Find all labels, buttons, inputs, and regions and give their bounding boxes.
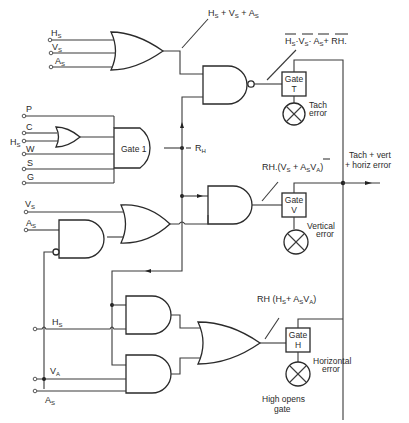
- svg-text:VS: VS: [25, 199, 35, 210]
- svg-text:S: S: [27, 158, 33, 168]
- note-high-opens: High opens: [262, 394, 305, 404]
- expr-or-top: HS + VS + AS: [208, 8, 259, 19]
- rh-label: RH: [195, 143, 206, 154]
- svg-text:HS: HS: [10, 137, 21, 148]
- expr-vert: RH.(VS + ASVA): [262, 159, 330, 173]
- expr-horiz: RH (HS+ ASVA): [257, 294, 316, 305]
- label-horizontal-error-2: error: [322, 364, 340, 374]
- gate-t-box: Gate T: [282, 72, 306, 96]
- gate-v-box: Gate V: [282, 193, 306, 217]
- svg-text:H: H: [295, 340, 301, 350]
- and-gate-lower-1: [126, 296, 171, 334]
- output-label-2: + horiz error: [345, 160, 391, 170]
- svg-text:Gate 1: Gate 1: [121, 144, 147, 154]
- lamp-horizontal-icon: [286, 362, 310, 386]
- svg-text:HS·VS· AS+ RH.: HS·VS· AS+ RH.: [285, 36, 347, 47]
- input-label-hs-top: HS: [51, 28, 62, 39]
- expr-tach: HS·VS· AS+ RH.: [285, 34, 348, 47]
- svg-text:Gate: Gate: [289, 330, 308, 340]
- svg-text:G: G: [27, 172, 34, 182]
- or-gate-small: [56, 127, 80, 147]
- svg-text:Gate: Gate: [285, 74, 304, 84]
- svg-text:C: C: [26, 122, 33, 132]
- label-tach-error-2: error: [309, 108, 327, 118]
- nand-gate-tach: [203, 66, 254, 104]
- label-vertical-error-2: error: [316, 229, 334, 239]
- lamp-tach-icon: [283, 103, 305, 125]
- and-gate-lower-2: [126, 355, 171, 393]
- and-gate-1: Gate 1: [114, 128, 150, 168]
- input-label-va: VA: [50, 366, 60, 377]
- input-label-hs-bottom: HS: [52, 317, 63, 328]
- svg-text:V: V: [291, 205, 297, 215]
- or-gate-middle: [121, 205, 170, 243]
- svg-text:Gate: Gate: [285, 195, 304, 205]
- input-label-vs-top: VS: [52, 42, 62, 53]
- svg-text:RH (HS+ ASVA): RH (HS+ ASVA): [257, 294, 316, 305]
- note-gate: gate: [274, 404, 291, 414]
- svg-text:W: W: [26, 144, 35, 154]
- input-label-as-bottom: AS: [45, 395, 55, 406]
- svg-text:P: P: [26, 104, 32, 114]
- lamp-vertical-icon: [284, 230, 308, 254]
- input-label-as-top: AS: [55, 56, 65, 67]
- or-gate-top: [111, 32, 163, 70]
- output-label-1: Tach + vert: [349, 150, 391, 160]
- svg-text:RH.(VS + ASVA): RH.(VS + ASVA): [262, 162, 323, 173]
- inputs-top: HS VS AS: [48, 28, 116, 69]
- or-gate-bottom: [198, 322, 260, 364]
- logic-circuit-diagram: HS VS AS HS + VS + AS HS·VS· AS+ RH. Gat…: [0, 0, 409, 423]
- svg-text:AS: AS: [26, 218, 36, 229]
- and-gate-vertical: [208, 186, 252, 224]
- svg-text:T: T: [291, 84, 296, 94]
- gate-h-box: Gate H: [286, 328, 310, 352]
- and-gate-as-va: [53, 220, 104, 258]
